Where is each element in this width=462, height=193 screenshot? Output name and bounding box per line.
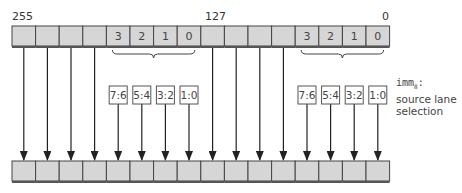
source-cell: 3: [106, 26, 130, 47]
destination-cell: [36, 161, 60, 182]
lane-selector-box: 5:4: [133, 86, 151, 104]
bit-label-255: 255: [12, 10, 33, 23]
destination-cell: [59, 161, 83, 182]
lane-selector-box: 7:6: [109, 86, 127, 104]
destination-cell: [83, 161, 107, 182]
svg-text:1:0: 1:0: [181, 89, 198, 101]
destination-cell: [248, 161, 272, 182]
destination-cell: [272, 161, 296, 182]
source-cell: 0: [177, 26, 201, 47]
source-cell: [272, 26, 296, 47]
svg-text:5:4: 5:4: [133, 89, 150, 101]
source-cell: [248, 26, 272, 47]
destination-cell: [224, 161, 248, 182]
destination-cell: [12, 161, 36, 182]
lane-braces: [112, 50, 383, 58]
source-cell: [83, 26, 107, 47]
bit-label-127: 127: [205, 10, 226, 23]
annotation-line-3: selection: [396, 105, 457, 117]
lane-selector-box: 3:2: [345, 86, 363, 104]
bit-label-0: 0: [382, 10, 389, 23]
shuffle-diagram: 32103210 7:65:43:21:07:65:43:21:0 255 12…: [0, 0, 462, 193]
imm-colon: :: [418, 77, 424, 88]
source-register: 32103210: [12, 26, 390, 47]
lane-selectors: 7:65:43:21:07:65:43:21:0: [109, 86, 387, 104]
imm-name: imm: [396, 77, 414, 88]
svg-text:7:6: 7:6: [299, 89, 316, 101]
destination-register: [12, 161, 390, 182]
lane-selector-box: 3:2: [156, 86, 174, 104]
destination-cell: [130, 161, 154, 182]
svg-text:2: 2: [138, 30, 145, 43]
destination-cell: [319, 161, 343, 182]
source-cell: 1: [342, 26, 366, 47]
imm8-annotation: imm8: source lane selection: [396, 76, 457, 117]
svg-text:3: 3: [304, 30, 311, 43]
destination-cell: [106, 161, 130, 182]
destination-cell: [177, 161, 201, 182]
svg-text:0: 0: [374, 30, 381, 43]
source-cell: [59, 26, 83, 47]
svg-text:2: 2: [327, 30, 334, 43]
svg-text:1: 1: [351, 30, 358, 43]
source-cell: 2: [130, 26, 154, 47]
source-cell: 1: [154, 26, 178, 47]
svg-text:5:4: 5:4: [322, 89, 339, 101]
svg-text:3:2: 3:2: [346, 89, 363, 101]
lane-selector-box: 1:0: [180, 86, 198, 104]
svg-text:0: 0: [186, 30, 193, 43]
source-cell: [224, 26, 248, 47]
source-cell: [201, 26, 225, 47]
svg-text:1: 1: [162, 30, 169, 43]
annotation-line-2: source lane: [396, 93, 457, 105]
lane-selector-box: 5:4: [322, 86, 340, 104]
source-cell: [12, 26, 36, 47]
svg-text:7:6: 7:6: [110, 89, 127, 101]
destination-cell: [366, 161, 390, 182]
destination-cell: [342, 161, 366, 182]
lane-selector-box: 7:6: [298, 86, 316, 104]
source-cell: 2: [319, 26, 343, 47]
source-cell: [36, 26, 60, 47]
source-cell: 0: [366, 26, 390, 47]
svg-text:3: 3: [115, 30, 122, 43]
source-cell: 3: [295, 26, 319, 47]
destination-cell: [201, 161, 225, 182]
svg-text:1:0: 1:0: [369, 89, 386, 101]
destination-cell: [154, 161, 178, 182]
destination-cell: [295, 161, 319, 182]
lane-selector-box: 1:0: [369, 86, 387, 104]
svg-text:3:2: 3:2: [157, 89, 174, 101]
